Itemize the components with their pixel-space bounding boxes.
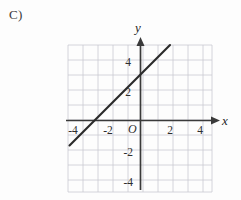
y-axis-label: y bbox=[133, 20, 141, 35]
origin-label: O bbox=[128, 122, 137, 136]
y-tick-label-neg4: -4 bbox=[123, 176, 133, 188]
y-tick-label-2: 2 bbox=[125, 86, 131, 98]
x-tick-label-4: 4 bbox=[197, 124, 203, 136]
coordinate-plane-graph: x y O -4 -2 2 4 4 2 -2 -4 bbox=[0, 0, 241, 200]
graph-question-panel: C) bbox=[0, 0, 241, 200]
x-tick-label-neg2: -2 bbox=[103, 124, 113, 136]
x-axis-label: x bbox=[221, 113, 228, 128]
x-tick-label-neg4: -4 bbox=[68, 124, 78, 136]
y-tick-label-neg2: -2 bbox=[123, 146, 133, 158]
y-tick-label-4: 4 bbox=[125, 56, 131, 68]
x-tick-label-2: 2 bbox=[167, 124, 173, 136]
